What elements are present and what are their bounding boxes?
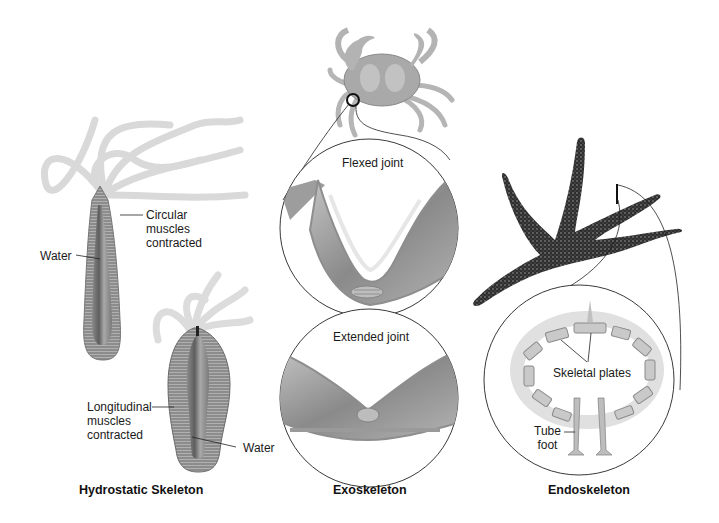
caption-exoskeleton: Exoskeleton xyxy=(333,483,407,497)
label-circular-muscles: Circular muscles contracted xyxy=(146,208,202,250)
label-line: foot xyxy=(534,438,561,452)
label-line: muscles xyxy=(87,414,152,428)
caption-hydrostatic-skeleton: Hydrostatic Skeleton xyxy=(79,483,203,497)
label-water-top: Water xyxy=(40,249,72,263)
label-skeletal-plates: Skeletal plates xyxy=(553,366,631,380)
label-extended-joint: Extended joint xyxy=(333,330,409,344)
label-tube-foot: Tube foot xyxy=(534,424,561,452)
hydra-contracted xyxy=(156,275,250,472)
label-line: contracted xyxy=(87,428,152,442)
label-line: contracted xyxy=(146,236,202,250)
crab xyxy=(330,30,452,135)
diagram-artwork xyxy=(0,0,719,523)
label-line: muscles xyxy=(146,222,202,236)
label-line: Tube xyxy=(534,424,561,438)
label-flexed-joint: Flexed joint xyxy=(342,156,403,170)
label-water-bottom: Water xyxy=(243,441,275,455)
label-line: Circular xyxy=(146,208,202,222)
label-longitudinal-muscles: Longitudinal muscles contracted xyxy=(87,400,152,442)
label-line: Longitudinal xyxy=(87,400,152,414)
endoskeleton-section-view xyxy=(484,285,674,475)
caption-endoskeleton: Endoskeleton xyxy=(548,483,630,497)
section-marker xyxy=(616,184,618,204)
